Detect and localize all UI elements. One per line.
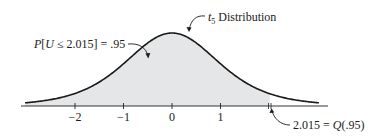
tick-label: −2 <box>69 110 82 124</box>
distribution-label: t5 Distribution <box>208 10 276 26</box>
arrowhead-icon <box>187 27 192 32</box>
tick-label: 0 <box>169 110 175 124</box>
quantile-label: 2.015 = Q(.95) <box>293 118 364 132</box>
arrowhead-icon <box>270 109 275 114</box>
dist-label-arrow <box>189 16 205 30</box>
quantile-label-arrow <box>272 111 290 125</box>
probability-label: P[U ≤ 2.015] = .95 <box>33 37 125 51</box>
tick-label: −1 <box>117 110 130 124</box>
t-distribution-chart: −2 −1 0 1 t5 Distribution P[U ≤ 2.015] =… <box>0 0 378 137</box>
tick-label: 1 <box>218 110 224 124</box>
